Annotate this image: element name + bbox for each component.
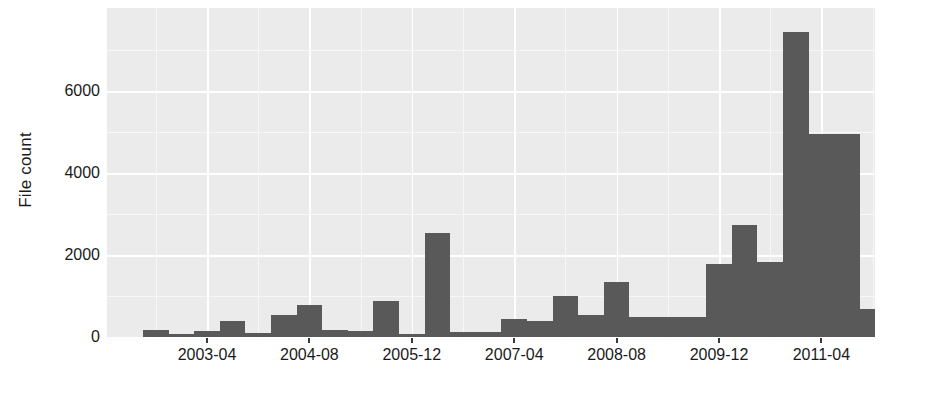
gridline-major-horizontal [107,173,875,175]
x-axis-tick-mark [513,338,515,343]
gridline-major-horizontal [107,91,875,93]
gridline-major-vertical [309,8,311,338]
gridline-minor-vertical [565,8,566,338]
x-axis-tick-label: 2011-04 [793,346,851,364]
bar [732,225,758,337]
bar [783,32,809,337]
x-axis-tick-label: 2004-08 [280,346,339,364]
gridline-major-horizontal [107,255,875,257]
bar [143,330,169,337]
gridline-minor-vertical [258,8,259,338]
bar [194,331,220,337]
x-axis-tick-mark [411,338,413,343]
bar [245,333,271,337]
bar [655,317,681,337]
x-axis-tick-mark [820,338,822,343]
bar [860,309,875,337]
y-axis-tick-label: 2000 [34,246,100,264]
bar [297,305,323,337]
gridline-minor-horizontal [107,50,875,51]
bar [629,317,655,337]
bar [757,262,783,337]
bar [399,334,425,337]
x-axis-tick-mark [308,338,310,343]
bar [809,134,835,337]
bar [706,264,732,337]
bar [271,315,297,337]
bar [834,134,860,337]
bar [322,330,348,337]
y-axis-tick-labels: 0200040006000 [34,0,100,395]
gridline-minor-horizontal [107,214,875,215]
gridline-minor-horizontal [107,132,875,133]
plot-panel [107,8,875,338]
y-axis-tick-label: 6000 [34,82,100,100]
bar [450,332,476,337]
gridline-minor-vertical [873,8,874,338]
bar [373,301,399,337]
gridline-minor-vertical [463,8,464,338]
x-axis-tick-mark [718,338,720,343]
bar [501,319,527,337]
bar-chart-figure: File count 0200040006000 2003-042004-082… [0,0,931,395]
gridline-major-vertical [207,8,209,338]
bar [220,321,246,337]
x-axis-tick-label: 2005-12 [382,346,441,364]
x-axis-tick-mark [616,338,618,343]
x-axis-tick-labels: 2003-042004-082005-122007-042008-082009-… [107,338,875,395]
gridline-minor-vertical [361,8,362,338]
bar [553,296,579,337]
y-axis-tick-label: 0 [34,328,100,346]
x-axis-tick-label: 2007-04 [485,346,544,364]
bar [476,332,502,337]
x-axis-tick-label: 2008-08 [587,346,646,364]
bar [425,233,451,337]
bar [348,331,374,337]
gridline-minor-vertical [156,8,157,338]
bar [578,315,604,337]
bar [681,317,707,337]
x-axis-tick-mark [206,338,208,343]
bar [604,282,630,337]
y-axis-tick-label: 4000 [34,164,100,182]
gridline-major-vertical [514,8,516,338]
bar [169,334,195,337]
y-axis-title-text: File count [16,132,36,208]
x-axis-tick-label: 2003-04 [178,346,237,364]
gridline-major-vertical [412,8,414,338]
x-axis-tick-label: 2009-12 [690,346,749,364]
gridline-minor-vertical [668,8,669,338]
bar [527,321,553,337]
